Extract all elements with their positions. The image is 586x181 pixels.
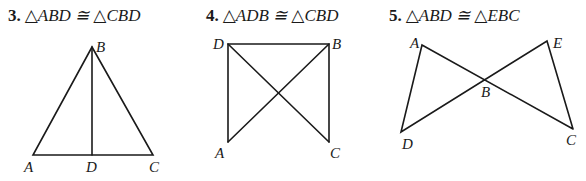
vertex-label-c: C xyxy=(566,132,577,148)
vertex-label-b: B xyxy=(96,39,105,55)
vertex-label-d: D xyxy=(401,136,413,152)
vertex-label-a: A xyxy=(23,159,34,175)
vertex-label-e: E xyxy=(552,35,562,51)
vertex-label-d: D xyxy=(212,36,224,52)
vertex-label-b: B xyxy=(481,84,490,100)
vertex-label-b: B xyxy=(332,36,341,52)
vertex-label-d: D xyxy=(85,159,97,175)
figure-4: D B A C xyxy=(212,36,341,161)
figure-3: B A D C xyxy=(23,39,160,175)
vertex-label-c: C xyxy=(330,145,341,161)
triangle-abc xyxy=(33,47,153,155)
vertex-label-a: A xyxy=(409,35,420,51)
vertex-label-c: C xyxy=(149,159,160,175)
vertex-label-a: A xyxy=(214,145,225,161)
geometry-figures: B A D C D B A C A E B D C xyxy=(0,0,586,181)
figure-5: A E B D C xyxy=(401,35,577,152)
